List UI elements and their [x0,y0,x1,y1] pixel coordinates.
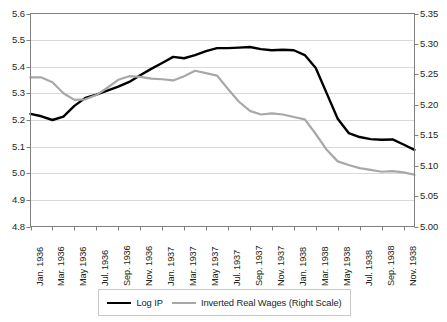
y-axis-left-tick-label: 5.5 [1,34,25,45]
y-axis-right-tick-label: 5.15 [420,129,447,140]
y-axis-left-tick-label: 5.3 [1,87,25,98]
x-axis-tick-label: Nov. 1937 [276,246,286,286]
legend-entry-inverted-real-wages: Inverted Real Wages (Right Scale) [172,297,342,308]
x-axis-tick-label: Sep. 1938 [386,245,396,286]
x-axis-tick-label: Mar. 1938 [320,246,330,286]
chart-plot-area [0,0,447,322]
left-axis-ticks [27,15,405,231]
y-axis-right-tick-label: 5.05 [420,190,447,201]
y-axis-left-tick-label: 5.0 [1,167,25,178]
x-axis-tick-label: May 1938 [342,247,352,286]
y-axis-left-tick-label: 4.9 [1,194,25,205]
x-axis-tick-label: Jul. 1937 [232,250,242,286]
x-axis-tick-label: Sep. 1936 [122,245,132,286]
x-axis-tick-label: May 1936 [78,247,88,286]
chart-figure: 4.84.95.05.15.25.35.45.55.6 5.005.055.10… [0,0,447,322]
y-axis-left-tick-label: 5.1 [1,141,25,152]
x-axis-tick-label: Jan. 1937 [166,247,176,286]
gridlines [31,41,415,201]
y-axis-right-tick-label: 5.20 [420,99,447,110]
y-axis-left-tick-label: 5.2 [1,114,25,125]
x-axis-tick-label: Jan. 1936 [35,247,45,286]
y-axis-left-tick-label: 5.4 [1,61,25,72]
x-axis-tick-label: Nov. 1938 [408,246,418,286]
y-axis-right-tick-label: 5.00 [420,221,447,232]
y-axis-left-tick-label: 4.8 [1,221,25,232]
chart-legend: Log IP Inverted Real Wages (Right Scale) [98,289,351,316]
x-axis-tick-label: Mar. 1937 [188,246,198,286]
legend-entry-log-ip: Log IP [107,297,163,308]
y-axis-right-tick-label: 5.25 [420,68,447,79]
x-axis-tick-label: Jul. 1938 [364,250,374,286]
x-axis-tick-label: Nov. 1936 [144,246,154,286]
x-axis-tick-label: Jan. 1938 [298,247,308,286]
x-axis-tick-label: Mar. 1936 [56,246,66,286]
legend-swatch-inverted-real-wages [172,302,196,304]
series-line-inverted-real-wages-right-scale [31,71,415,175]
x-axis-tick-label: Jul. 1936 [100,250,110,286]
y-axis-right-tick-label: 5.10 [420,160,447,171]
series-lines [31,47,415,175]
y-axis-right-tick-label: 5.30 [420,38,447,49]
legend-label-inverted-real-wages: Inverted Real Wages (Right Scale) [201,297,342,308]
y-axis-right-tick-label: 5.35 [420,8,447,19]
legend-label-log-ip: Log IP [136,297,163,308]
x-axis-tick-label: May 1937 [210,247,220,286]
x-axis-tick-label: Sep. 1937 [254,245,264,286]
legend-swatch-log-ip [107,302,131,304]
y-axis-left-tick-label: 5.6 [1,8,25,19]
right-axis-ticks [415,15,419,228]
